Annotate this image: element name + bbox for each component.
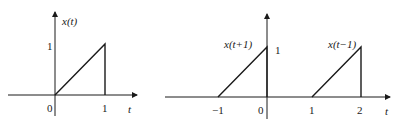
right-plot: x(t+1) x(t−1) 1 −1 0 1 2 t — [165, 14, 390, 119]
left-x-tick-1: 1 — [102, 102, 108, 114]
left-x-tick-0: 0 — [47, 102, 53, 114]
x-t-plus-1-label: x(t+1) — [223, 38, 253, 51]
right-x-tick-1: 1 — [309, 104, 315, 116]
left-plot: x(t) 1 0 1 t — [8, 12, 137, 116]
right-x-tick-0: 0 — [258, 104, 264, 116]
left-x-axis-label: t — [128, 103, 132, 115]
left-y-tick-1: 1 — [47, 40, 53, 52]
x-t-minus-1-ramp — [312, 47, 361, 97]
x-t-plus-1-ramp — [218, 47, 267, 97]
right-x-tick-2: 2 — [357, 104, 363, 116]
right-x-tick-neg1: −1 — [212, 104, 224, 116]
x-t-minus-1-label: x(t−1) — [327, 38, 357, 51]
right-y-tick-1: 1 — [275, 44, 281, 56]
x-t-ramp — [55, 44, 105, 95]
left-signal-label: x(t) — [61, 15, 78, 28]
signal-shift-diagram: x(t) 1 0 1 t x(t+1) x(t−1) 1 −1 0 1 2 t — [0, 0, 398, 126]
right-x-axis-label: t — [385, 105, 389, 117]
